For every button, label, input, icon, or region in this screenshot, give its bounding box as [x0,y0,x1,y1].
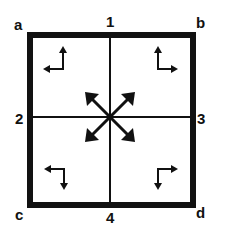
edge-label-3: 3 [197,111,205,126]
corner-label-b: b [196,15,205,30]
edge-label-2: 2 [15,111,23,126]
arrow-icon-bottom-left-left-down [44,165,68,190]
diagram-svg [0,0,228,240]
arrow-icon-top-right-up-right [154,46,178,73]
edge-label-1: 1 [106,14,114,29]
edge-label-4: 4 [106,210,114,225]
corner-label-c: c [15,207,23,222]
diagram-canvas: a b c d 1 2 3 4 [0,0,228,240]
corner-label-d: d [196,205,205,220]
arrow-icon-bottom-right-right-down [154,165,178,190]
corner-label-a: a [14,17,22,32]
arrow-icon-top-left-up-left [43,46,67,73]
